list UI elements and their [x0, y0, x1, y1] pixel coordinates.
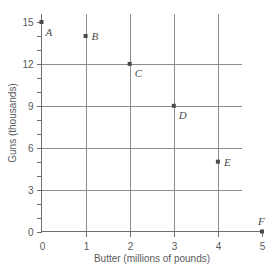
x-axis-ticks: [87, 232, 263, 237]
horizontal-gridlines: [42, 65, 243, 191]
x-axis-title: Butter (millions of pounds): [94, 253, 210, 264]
data-points: ABCDEF: [40, 20, 266, 234]
x-axis-tick-label: 4: [216, 241, 222, 252]
data-point-label: C: [135, 67, 143, 79]
y-axis-tick-label: 6: [28, 143, 34, 154]
y-axis-tick-label: 9: [28, 101, 34, 112]
x-axis-tick-label: 5: [260, 241, 266, 252]
y-axis-tick-label: 15: [22, 17, 34, 28]
data-point-marker: [216, 160, 220, 164]
data-point-f: F: [257, 215, 265, 234]
data-point-label: A: [45, 26, 53, 38]
data-point-marker: [172, 104, 176, 108]
y-axis-minor-ticks: [37, 37, 42, 219]
x-axis-tick-label: 3: [172, 241, 178, 252]
data-point-label: D: [178, 109, 187, 121]
data-point-marker: [40, 20, 44, 24]
y-axis-tick-label: 3: [28, 185, 34, 196]
x-axis-tick-label: 1: [84, 241, 90, 252]
y-axis-title: Guns (thousands): [7, 83, 18, 163]
y-axis-tick-label: 12: [22, 59, 34, 70]
vertical-gridlines: [87, 14, 219, 232]
scatter-chart: 03691215 012345 ABCDEF Butter (millions …: [0, 0, 276, 268]
plot-area: 03691215 012345 ABCDEF Butter (millions …: [0, 0, 276, 268]
y-axis-tick-labels: 03691215: [22, 17, 34, 238]
x-axis-tick-label: 0: [40, 241, 46, 252]
data-point-label: E: [223, 156, 231, 168]
data-point-b: B: [84, 30, 99, 42]
data-point-label: B: [92, 30, 99, 42]
data-point-marker: [128, 62, 132, 66]
x-axis-tick-labels: 012345: [40, 241, 266, 252]
data-point-label: F: [257, 215, 265, 227]
y-axis-tick-label: 0: [28, 227, 34, 238]
data-point-marker: [260, 230, 264, 234]
data-point-marker: [84, 34, 88, 38]
y-axis-major-ticks: [37, 23, 42, 233]
x-axis-tick-label: 2: [128, 241, 134, 252]
